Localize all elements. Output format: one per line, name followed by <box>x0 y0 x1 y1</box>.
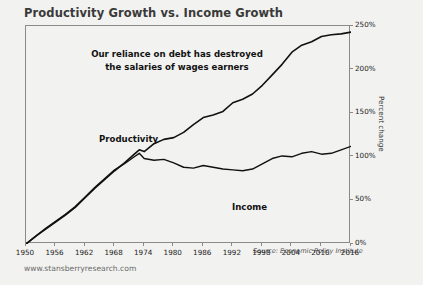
x-tick-label: 2016 <box>341 248 359 257</box>
x-tick-mark <box>113 243 114 246</box>
series-label-income: Income <box>232 202 267 212</box>
series-label-productivity: Productivity <box>99 134 158 144</box>
x-tick-label: 1980 <box>164 248 182 257</box>
x-tick-label: 1950 <box>16 248 34 257</box>
y-tick-label: 100% <box>355 151 376 160</box>
y-axis-label: Percent change <box>377 96 386 152</box>
annotation-callout: Our reliance on debt has destroyed the s… <box>62 48 292 73</box>
x-axis: 1950195619621968197419801986199219982004… <box>25 243 350 263</box>
y-tick-label: 200% <box>355 64 376 73</box>
x-tick-label: 2010 <box>311 248 329 257</box>
y-tick-mark <box>350 199 353 200</box>
x-tick-mark <box>202 243 203 246</box>
page-title: Productivity Growth vs. Income Growth <box>24 6 283 20</box>
annotation-line-1: Our reliance on debt has destroyed <box>62 48 292 61</box>
x-tick-mark <box>54 243 55 246</box>
x-tick-mark <box>320 243 321 246</box>
y-axis-right: 0%50%100%150%200%250% <box>350 25 396 243</box>
x-tick-label: 1998 <box>252 248 270 257</box>
annotation-line-2: the salaries of wages earners <box>62 61 292 74</box>
footer-url: www.stansberryresearch.com <box>24 264 136 273</box>
y-tick-label: 50% <box>355 194 371 203</box>
x-tick-mark <box>172 243 173 246</box>
x-tick-label: 1962 <box>75 248 93 257</box>
y-tick-mark <box>350 25 353 26</box>
x-tick-label: 1974 <box>134 248 152 257</box>
x-tick-label: 1992 <box>223 248 241 257</box>
y-tick-mark <box>350 112 353 113</box>
y-tick-label: 150% <box>355 107 376 116</box>
x-tick-mark <box>261 243 262 246</box>
x-tick-label: 2004 <box>282 248 300 257</box>
x-tick-mark <box>350 243 351 246</box>
plot-area: Our reliance on debt has destroyed the s… <box>25 25 350 243</box>
x-tick-mark <box>290 243 291 246</box>
x-tick-mark <box>143 243 144 246</box>
y-tick-mark <box>350 68 353 69</box>
y-tick-label: 250% <box>355 20 376 29</box>
y-tick-mark <box>350 155 353 156</box>
x-tick-label: 1956 <box>45 248 63 257</box>
x-tick-label: 1986 <box>193 248 211 257</box>
y-tick-label: 0% <box>355 238 366 247</box>
x-tick-label: 1968 <box>104 248 122 257</box>
x-tick-mark <box>84 243 85 246</box>
line-income <box>26 146 351 244</box>
x-tick-mark <box>25 243 26 246</box>
x-tick-mark <box>231 243 232 246</box>
